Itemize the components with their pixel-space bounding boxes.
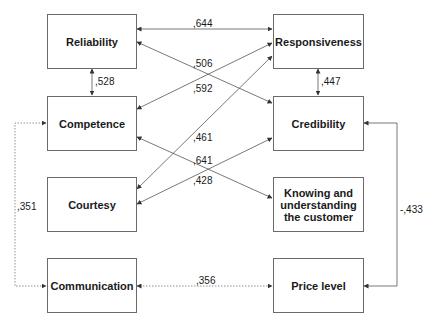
weight-label-447: ,447	[321, 76, 340, 87]
node-reliability: Reliability	[47, 14, 137, 69]
weight-label-641: ,641	[193, 155, 212, 166]
node-knowing-label: Knowing and understanding the customer	[280, 187, 356, 223]
node-communication: Communication	[47, 258, 137, 313]
node-communication-label: Communication	[50, 280, 133, 292]
weight-label-506: ,506	[193, 58, 212, 69]
edge-courtesy-credibility	[137, 138, 272, 204]
weight-label-461: ,461	[193, 132, 212, 143]
node-courtesy: Courtesy	[47, 177, 137, 232]
node-price-level-label: Price level	[291, 280, 345, 292]
node-responsiveness: Responsiveness	[273, 14, 364, 69]
node-credibility-label: Credibility	[292, 118, 346, 130]
node-knowing: Knowing and understanding the customer	[273, 177, 364, 232]
node-price-level: Price level	[273, 258, 364, 313]
edge-credibility-price	[364, 123, 397, 286]
node-reliability-label: Reliability	[66, 36, 118, 48]
node-competence: Competence	[47, 96, 137, 151]
edge-competence-knowing	[137, 137, 272, 198]
weight-label-433: -,433	[400, 204, 423, 215]
node-responsiveness-label: Responsiveness	[275, 36, 362, 48]
node-credibility: Credibility	[273, 96, 364, 151]
weight-label-528: ,528	[95, 76, 114, 87]
weight-label-428: ,428	[193, 175, 212, 186]
node-competence-label: Competence	[59, 118, 125, 130]
weight-label-644: ,644	[193, 18, 212, 29]
weight-label-356: ,356	[196, 275, 215, 286]
weight-label-351: ,351	[17, 201, 36, 212]
correlation-diagram: Reliability Responsiveness Competence Cr…	[0, 0, 431, 331]
weight-label-592: ,592	[193, 83, 212, 94]
node-courtesy-label: Courtesy	[68, 199, 116, 211]
